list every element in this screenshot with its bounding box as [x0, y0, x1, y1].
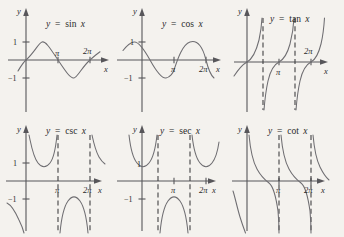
- y-axis-label: y: [132, 6, 137, 16]
- xtick-label-pi: π: [171, 64, 176, 74]
- y-axis-arrow: [23, 125, 29, 133]
- xtick-label-pi: π: [276, 67, 281, 77]
- curve-csc-branch-neg: [7, 203, 24, 233]
- y-axis-label: y: [132, 124, 137, 134]
- panel-cot: y x π 2π y = cot x: [228, 119, 343, 237]
- y-axis-arrow: [244, 125, 250, 133]
- equation-label-cot: y = cot x: [267, 126, 308, 136]
- xtick-label-2pi: 2π: [83, 185, 92, 195]
- curve-csc-branch-0: [29, 135, 57, 167]
- curve-sec-branch-2: [192, 135, 219, 167]
- x-axis-label: x: [211, 185, 216, 195]
- equation-label-tan: y = tan x: [269, 14, 310, 24]
- x-axis-label: x: [215, 64, 220, 74]
- y-axis-arrow: [244, 8, 250, 16]
- y-axis-label: y: [237, 6, 242, 16]
- x-axis-label: x: [97, 185, 102, 195]
- ytick-label-1: 1: [13, 38, 17, 47]
- y-axis-arrow: [139, 125, 145, 133]
- y-axis-arrow: [23, 8, 29, 16]
- equation-label-sin: y = sin x: [45, 19, 86, 29]
- ytick-label-1: 1: [13, 159, 17, 168]
- curve-sec-branch-0: [129, 135, 157, 167]
- curve-cot-branch-1: [281, 135, 311, 233]
- y-axis-label: y: [237, 124, 242, 134]
- x-axis-arrow: [320, 59, 328, 65]
- x-axis-label: x: [323, 66, 328, 76]
- equation-label-sec: y = sec x: [159, 126, 201, 136]
- x-axis-arrow: [213, 57, 221, 63]
- xtick-label-2pi: 2π: [304, 185, 313, 195]
- curve-tan-branch-0: [234, 18, 262, 76]
- panel-csc: y x 1 −1 π 2π y = csc x: [0, 119, 115, 237]
- curve-cot-branch-neg: [233, 191, 246, 233]
- ytick-label-neg1: −1: [8, 74, 17, 83]
- ytick-label-neg1: −1: [124, 195, 133, 204]
- xtick-label-pi: π: [55, 48, 60, 58]
- panel-tan: y x π 2π y = tan x: [228, 0, 343, 118]
- ytick-label-neg1: −1: [8, 195, 17, 204]
- curve-csc-branch-1: [60, 197, 88, 233]
- curve-csc-branch-2: [92, 135, 105, 164]
- xtick-label-2pi: 2π: [304, 46, 313, 56]
- equation-label-csc: y = csc x: [45, 126, 87, 136]
- trig-graphs-figure: y x 1 −1 π 2π y = sin x y: [0, 0, 344, 237]
- x-axis-arrow: [94, 178, 102, 184]
- equation-label-cos: y = cos x: [161, 19, 203, 29]
- curve-cot-branch-2: [313, 135, 329, 180]
- x-axis-arrow: [208, 178, 216, 184]
- xtick-label-2pi: 2π: [199, 185, 208, 195]
- xtick-label-pi: π: [55, 185, 60, 195]
- y-axis-label: y: [16, 6, 21, 16]
- x-axis-arrow: [101, 57, 109, 63]
- panel-sin: y x 1 −1 π 2π y = sin x: [0, 0, 115, 118]
- x-axis-arrow: [317, 178, 325, 184]
- y-axis-label: y: [16, 124, 21, 134]
- ytick-label-1: 1: [137, 160, 141, 169]
- xtick-label-pi: π: [171, 185, 176, 195]
- curve-cot-branch-0: [249, 135, 279, 233]
- panel-sec: y x 1 −1 π 2π y = sec x: [113, 119, 228, 237]
- xtick-label-2pi: 2π: [83, 46, 92, 56]
- xtick-label-2pi: 2π: [199, 64, 208, 74]
- ytick-label-1: 1: [130, 38, 134, 47]
- y-axis-arrow: [139, 8, 145, 16]
- x-axis-label: x: [103, 64, 108, 74]
- xtick-label-pi: π: [276, 185, 281, 195]
- curve-sec-branch-1: [160, 197, 188, 233]
- ytick-label-neg1: −1: [124, 74, 133, 83]
- x-axis-label: x: [320, 185, 325, 195]
- panel-cos: y x 1 −1 π 2π y = cos x: [113, 0, 228, 118]
